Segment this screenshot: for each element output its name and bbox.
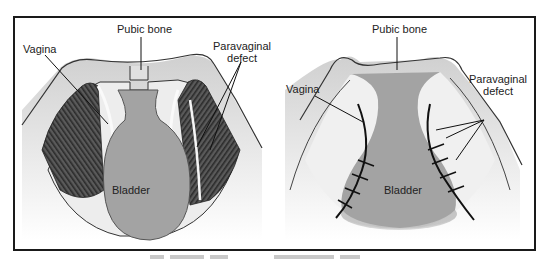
label-paravaginal-defect-right-line2: defect — [468, 85, 528, 97]
left-panel-illustration — [22, 37, 262, 240]
pelvic-anatomy-illustration — [0, 0, 547, 260]
label-pubic-bone-left: Pubic bone — [117, 23, 167, 35]
label-vagina-left: Vagina — [23, 43, 56, 55]
label-paravaginal-defect-right-line1: Paravaginal — [468, 73, 528, 85]
label-pubic-bone-right: Pubic bone — [372, 23, 422, 35]
label-paravaginal-defect-left-line1: Paravaginal — [212, 40, 272, 52]
right-panel-illustration — [285, 37, 522, 240]
label-bladder-left: Bladder — [112, 184, 150, 196]
clipped-caption-remnant — [150, 255, 390, 260]
label-paravaginal-defect-left-line2: defect — [212, 52, 272, 64]
label-bladder-right: Bladder — [384, 184, 422, 196]
label-vagina-right: Vagina — [286, 83, 319, 95]
